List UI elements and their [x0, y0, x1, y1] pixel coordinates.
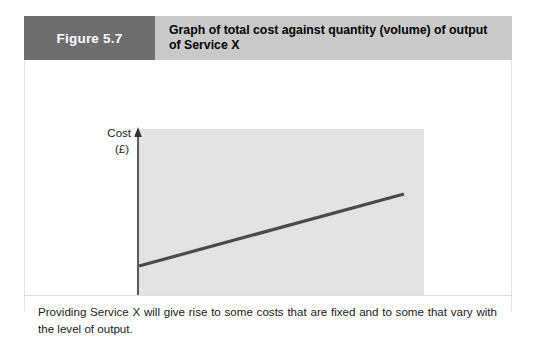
figure-number-badge: Figure 5.7 [24, 16, 155, 60]
plot-background [139, 129, 424, 295]
chart-area: Cost (£) Quantity (units) [25, 60, 511, 295]
y-axis-label: Cost [107, 127, 131, 139]
figure-title: Graph of total cost against quantity (vo… [169, 23, 502, 54]
cost-volume-line-chart: Cost (£) Quantity (units) [25, 60, 511, 295]
figure-caption: Providing Service X will give rise to so… [25, 296, 511, 338]
y-axis-units-label: (£) [115, 143, 129, 155]
figure-body: Cost (£) Quantity (units) Providing Serv… [24, 60, 512, 311]
figure-block: Figure 5.7 Graph of total cost against q… [24, 16, 512, 311]
figure-header: Figure 5.7 Graph of total cost against q… [24, 16, 512, 60]
figure-title-container: Graph of total cost against quantity (vo… [155, 16, 512, 60]
figure-number-label: Figure 5.7 [57, 31, 123, 46]
